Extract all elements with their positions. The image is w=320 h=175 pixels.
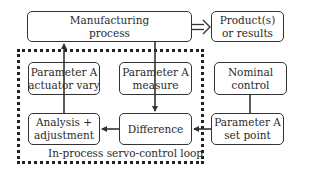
node-label: or results bbox=[222, 27, 273, 40]
node-label: control bbox=[232, 79, 270, 92]
node-label: Product(s) bbox=[220, 14, 276, 27]
manufacturing-process-node: Manufacturing process bbox=[27, 11, 192, 42]
node-label: Nominal bbox=[228, 66, 273, 79]
node-label: set point bbox=[224, 129, 271, 142]
node-label: Difference bbox=[128, 123, 184, 136]
difference-node: Difference bbox=[119, 113, 192, 145]
analysis-adjustment-node: Analysis + adjustment bbox=[28, 113, 100, 145]
node-label: process bbox=[89, 27, 130, 40]
actuator-node: Parameter A actuator vary bbox=[28, 62, 100, 95]
nominal-control-node: Nominal control bbox=[214, 62, 287, 95]
process-to-products-double-arrow bbox=[192, 20, 210, 34]
measure-node: Parameter A measure bbox=[119, 62, 192, 95]
node-label: Analysis + bbox=[36, 116, 92, 129]
node-label: Parameter A bbox=[31, 66, 98, 79]
set-point-node: Parameter A set point bbox=[211, 113, 284, 145]
node-label: Manufacturing bbox=[70, 14, 149, 27]
node-label: Parameter A bbox=[122, 66, 189, 79]
loop-caption: In-process servo-control loop bbox=[48, 147, 203, 159]
node-label: measure bbox=[133, 79, 179, 92]
products-node: Product(s) or results bbox=[211, 11, 284, 42]
node-label: actuator vary bbox=[28, 79, 99, 92]
node-label: Parameter A bbox=[214, 116, 281, 129]
node-label: adjustment bbox=[34, 129, 94, 142]
